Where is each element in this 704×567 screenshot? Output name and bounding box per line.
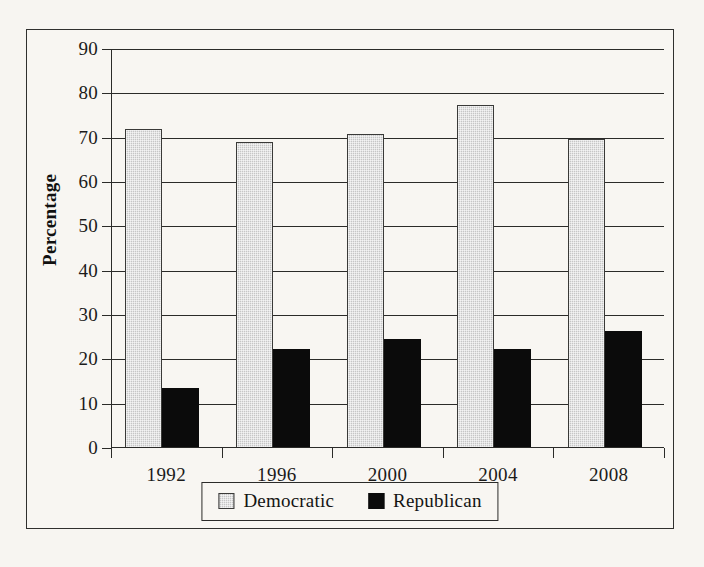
y-tick-label: 0 (88, 437, 98, 459)
bar-democratic-1996 (236, 142, 273, 448)
bars-layer (111, 49, 664, 448)
x-tick-mark (332, 448, 333, 458)
x-tick-mark (222, 448, 223, 458)
y-tick-mark (102, 226, 111, 227)
bar-democratic-2004 (457, 105, 494, 448)
x-tick-label-2008: 2008 (589, 464, 629, 486)
x-tick-mark (664, 448, 665, 458)
y-tick-label: 10 (79, 393, 98, 415)
chart-legend: DemocraticRepublican (201, 482, 498, 521)
y-tick-mark (102, 49, 111, 50)
legend-entry-republican: Republican (368, 490, 482, 512)
y-tick-mark (102, 182, 111, 183)
legend-swatch-icon (218, 493, 234, 509)
y-tick-label: 60 (79, 171, 98, 193)
y-tick-label: 70 (79, 127, 98, 149)
x-tick-mark (111, 448, 112, 458)
x-axis-line (111, 447, 664, 448)
y-tick-mark (102, 93, 111, 94)
x-tick-mark (553, 448, 554, 458)
bar-democratic-2000 (347, 134, 384, 448)
legend-swatch-icon (368, 493, 384, 509)
y-tick-label: 90 (79, 38, 98, 60)
legend-label: Republican (393, 490, 482, 512)
y-tick-mark (102, 448, 111, 449)
y-tick-label: 20 (79, 348, 98, 370)
x-tick-label-1992: 1992 (146, 464, 186, 486)
x-tick-mark (443, 448, 444, 458)
bar-republican-1996 (273, 349, 310, 448)
y-tick-label: 80 (79, 82, 98, 104)
bar-democratic-2008 (568, 139, 605, 448)
y-axis-title: Percentage (39, 174, 61, 266)
legend-label: Democratic (243, 490, 334, 512)
y-tick-label: 50 (79, 215, 98, 237)
y-tick-mark (102, 138, 111, 139)
figure-frame: Percentage 0102030405060708090 199219962… (26, 29, 674, 529)
y-tick-mark (102, 271, 111, 272)
bar-republican-2008 (605, 331, 642, 448)
plot-area: 0102030405060708090 19921996200020042008 (111, 49, 664, 448)
y-tick-mark (102, 315, 111, 316)
bar-republican-2004 (494, 349, 531, 448)
figure-page: Percentage 0102030405060708090 199219962… (0, 0, 704, 567)
y-tick-mark (102, 404, 111, 405)
bar-republican-1992 (162, 388, 199, 448)
y-tick-mark (102, 359, 111, 360)
legend-entry-democratic: Democratic (218, 490, 334, 512)
bar-democratic-1992 (125, 129, 162, 448)
y-tick-label: 30 (79, 304, 98, 326)
bar-republican-2000 (384, 339, 421, 448)
y-tick-label: 40 (79, 260, 98, 282)
